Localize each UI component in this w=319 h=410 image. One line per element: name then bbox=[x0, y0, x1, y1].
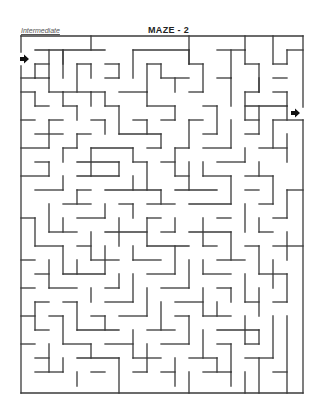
arrow-right-icon bbox=[291, 109, 300, 118]
exit-arrow-icon bbox=[291, 109, 300, 118]
entrance-arrow-icon bbox=[20, 55, 29, 64]
maze-walls bbox=[21, 36, 303, 393]
maze-board bbox=[0, 0, 319, 410]
arrow-right-icon bbox=[20, 55, 29, 64]
